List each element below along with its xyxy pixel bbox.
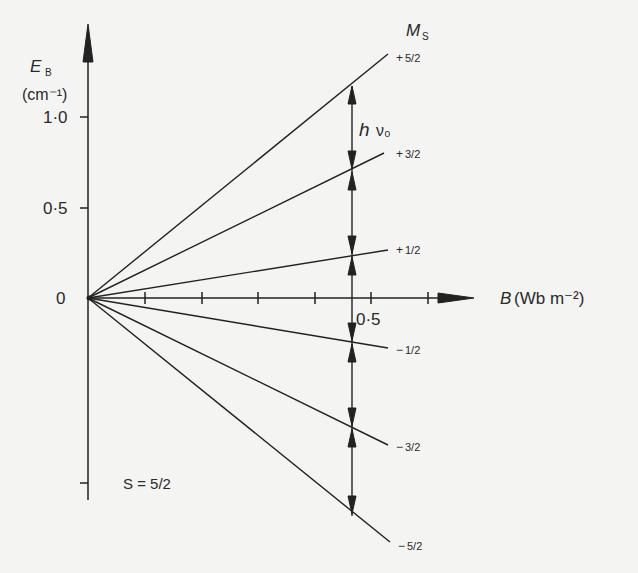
level-label-sign: − xyxy=(396,343,403,357)
x-axis-symbol: B xyxy=(500,289,511,308)
level-label-frac: 1/2 xyxy=(405,244,420,256)
level-label-sign: + xyxy=(396,51,403,65)
level-label-frac: 3/2 xyxy=(405,148,420,160)
levels-title: M xyxy=(406,21,421,40)
zeeman-diagram: E B (cm⁻¹) 1·0 0·5 0 0·5 B (Wb m⁻²) M S … xyxy=(0,0,638,573)
level-label-frac: 1/2 xyxy=(405,344,420,356)
level-line-plus-5-2 xyxy=(88,54,388,298)
y-axis-symbol: E xyxy=(30,57,42,76)
levels-title-sub: S xyxy=(422,31,429,42)
level-label-sign: − xyxy=(398,539,405,553)
transition-arrows xyxy=(348,86,356,516)
y-axis-unit: (cm⁻¹) xyxy=(22,86,67,103)
y-tick-label-1: 1·0 xyxy=(43,108,68,127)
level-line-minus-1-2 xyxy=(88,298,388,348)
level-line-minus-3-2 xyxy=(88,298,388,445)
x-tick-label-0-5: 0·5 xyxy=(356,310,381,329)
level-label-frac: 5/2 xyxy=(407,540,422,552)
y-axis-arrow-icon xyxy=(83,24,93,62)
level-line-plus-1-2 xyxy=(88,250,388,298)
origin-point xyxy=(87,296,92,301)
y-axis-subscript: B xyxy=(45,67,52,78)
level-line-minus-5-2 xyxy=(88,298,390,542)
level-line-plus-3-2 xyxy=(88,153,384,298)
y-tick-label-0: 0 xyxy=(56,289,65,308)
x-axis xyxy=(88,292,474,304)
resonance-nu-label: ν₀ xyxy=(376,122,391,139)
level-label-sign: − xyxy=(396,440,403,454)
level-labels: + 5/2 + 3/2 + 1/2 − 1/2 − 3/2 − 5/2 xyxy=(396,51,422,553)
level-label-frac: 3/2 xyxy=(405,441,420,453)
level-label-frac: 5/2 xyxy=(405,52,420,64)
level-label-sign: + xyxy=(396,147,403,161)
y-tick-label-0-5: 0·5 xyxy=(43,199,68,218)
y-axis xyxy=(80,24,93,500)
resonance-h-label: h xyxy=(359,119,370,140)
x-axis-unit: (Wb m⁻²) xyxy=(514,289,584,308)
spin-label: S = 5/2 xyxy=(123,475,171,492)
level-label-sign: + xyxy=(396,243,403,257)
x-axis-arrow-icon xyxy=(438,293,474,303)
